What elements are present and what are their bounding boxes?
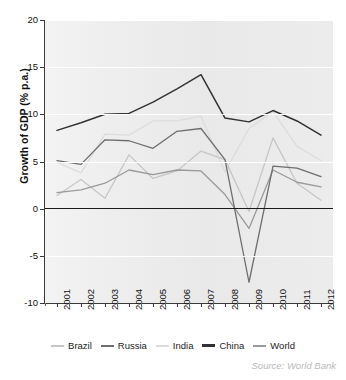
y-tick-label--5: -5 [16, 250, 38, 261]
x-tick-2006 [177, 303, 178, 307]
x-tick-minor-2 [93, 303, 94, 306]
x-tick-label-2002: 2002 [85, 289, 96, 310]
x-tick-label-2010: 2010 [277, 289, 288, 310]
legend-line-icon-brazil [51, 345, 64, 347]
y-tick-label-10: 10 [16, 108, 38, 119]
source-note: Source: World Bank [252, 360, 336, 371]
legend-line-icon-india [156, 345, 169, 347]
x-tick-label-2011: 2011 [301, 290, 312, 310]
legend-label: China [219, 340, 244, 351]
y-tick-label--10: -10 [16, 297, 38, 308]
x-tick-label-2007: 2007 [205, 289, 216, 310]
legend-label: India [173, 340, 194, 351]
series-line-india [57, 112, 321, 173]
x-tick-label-2003: 2003 [109, 289, 120, 310]
chart-legend: BrazilRussiaIndiaChinaWorld [0, 340, 346, 351]
x-tick-label-2009: 2009 [253, 289, 264, 310]
x-tick-2008 [225, 303, 226, 307]
x-tick-minor-5 [165, 303, 166, 306]
x-tick-2007 [201, 303, 202, 307]
x-tick-label-2012: 2012 [325, 289, 336, 310]
x-tick-minor-0 [45, 303, 46, 306]
x-tick-minor-10 [285, 303, 286, 306]
x-tick-2005 [153, 303, 154, 307]
x-tick-minor-9 [261, 303, 262, 306]
x-tick-minor-7 [213, 303, 214, 306]
x-tick-2002 [81, 303, 82, 307]
gdp-growth-line-chart: Growth of GDP (% p.a.) -10-505101520 200… [0, 0, 346, 380]
y-axis-line [44, 20, 45, 304]
legend-line-icon-russia [101, 345, 114, 347]
x-tick-label-2008: 2008 [229, 289, 240, 310]
series-line-world [57, 170, 321, 228]
y-tick-label-0: 0 [16, 203, 38, 214]
x-tick-minor-1 [69, 303, 70, 306]
x-tick-minor-4 [141, 303, 142, 306]
x-tick-2004 [129, 303, 130, 307]
y-tick-label-5: 5 [16, 156, 38, 167]
legend-item-world[interactable]: World [253, 340, 295, 351]
x-tick-2003 [105, 303, 106, 307]
x-tick-label-2006: 2006 [181, 289, 192, 310]
gridline-15 [45, 67, 333, 68]
legend-item-russia[interactable]: Russia [101, 340, 147, 351]
legend-line-icon-world [253, 345, 266, 347]
legend-item-china[interactable]: China [202, 340, 244, 351]
gridline-20 [45, 20, 333, 21]
x-tick-minor-8 [237, 303, 238, 306]
x-tick-2011 [297, 303, 298, 307]
y-tick-label-20: 20 [16, 14, 38, 25]
legend-item-brazil[interactable]: Brazil [51, 340, 92, 351]
zero-line [45, 208, 333, 210]
x-tick-minor-3 [117, 303, 118, 306]
x-tick-minor-11 [309, 303, 310, 306]
series-line-russia [57, 128, 321, 282]
x-tick-minor-6 [189, 303, 190, 306]
legend-line-icon-china [202, 344, 215, 346]
x-tick-2010 [273, 303, 274, 307]
series-line-china [57, 75, 321, 135]
gridline-10 [45, 114, 333, 115]
x-tick-2001 [57, 303, 58, 307]
plot-area [45, 20, 333, 303]
x-tick-minor-end [333, 303, 334, 306]
y-axis-tick-labels: -10-505101520 [0, 0, 38, 320]
x-tick-2012 [321, 303, 322, 307]
x-tick-2009 [249, 303, 250, 307]
x-tick-label-2001: 2001 [61, 289, 72, 310]
legend-label: World [270, 340, 295, 351]
y-tick-label-15: 15 [16, 61, 38, 72]
x-tick-label-2004: 2004 [133, 289, 144, 310]
gridline-5 [45, 162, 333, 163]
legend-label: Russia [118, 340, 147, 351]
x-tick-label-2005: 2005 [157, 289, 168, 310]
gridline--5 [45, 256, 333, 257]
legend-label: Brazil [68, 340, 92, 351]
legend-item-india[interactable]: India [156, 340, 194, 351]
